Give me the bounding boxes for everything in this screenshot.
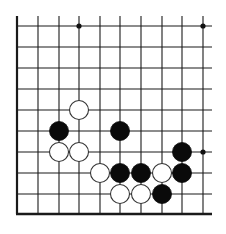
black-stone [173, 143, 192, 162]
white-stone [91, 164, 110, 183]
star-point-icon [200, 149, 205, 154]
black-stone [111, 122, 130, 141]
white-stone [132, 185, 151, 204]
white-stone [70, 101, 89, 120]
black-stone [111, 164, 130, 183]
white-stone [111, 185, 130, 204]
white-stone [153, 164, 172, 183]
white-stone [50, 143, 69, 162]
go-board [0, 0, 226, 234]
black-stone [132, 164, 151, 183]
board-grid [16, 16, 212, 214]
black-stone [50, 122, 69, 141]
star-point-icon [76, 23, 81, 28]
black-stone [153, 185, 172, 204]
black-stone [173, 164, 192, 183]
star-point-icon [200, 23, 205, 28]
white-stone [70, 143, 89, 162]
